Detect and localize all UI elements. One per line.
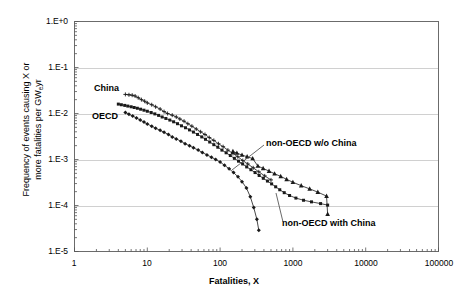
data-series-group [117, 92, 330, 232]
chart-svg-overlay [0, 0, 468, 302]
series-oecd [123, 111, 260, 233]
series-non-oecd-with-china [231, 149, 330, 216]
series-non-oecd-w-o-china [117, 103, 329, 207]
figure-chart: 1.E+0 1.E-1 1.E-2 1.E-3 1.E-4 1.E-5 1 10… [0, 0, 468, 302]
leader-line-with-china [276, 193, 283, 222]
